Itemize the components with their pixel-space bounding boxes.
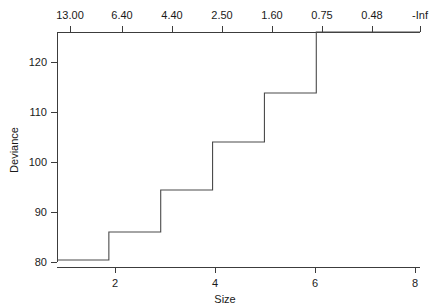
top-tick-label: 0.75 [311, 9, 332, 21]
top-tick-label: 6.40 [111, 9, 132, 21]
top-tick-label: 1.60 [261, 9, 282, 21]
deviance-step-series [57, 32, 420, 260]
x-tick-label: 6 [312, 277, 318, 289]
y-tick-label: 120 [29, 56, 47, 68]
y-tick-label: 80 [35, 256, 47, 268]
top-tick-label: 0.48 [361, 9, 382, 21]
y-tick-label: 90 [35, 206, 47, 218]
y-axis-title: Deviance [8, 127, 20, 173]
x-axis-ticks [115, 267, 415, 273]
top-tick-label: 4.40 [161, 9, 182, 21]
y-tick-label: 110 [29, 106, 47, 118]
x-axis-title: Size [214, 293, 235, 305]
x-tick-label: 4 [212, 277, 218, 289]
x-axis-tick-labels: 2 4 6 8 [112, 277, 418, 289]
top-tick-label: 2.50 [211, 9, 232, 21]
top-tick-label: -Inf [412, 9, 429, 21]
plot-canvas: 80 90 100 110 120 Deviance 2 4 6 8 Size [0, 0, 447, 307]
x-tick-label: 2 [112, 277, 118, 289]
y-axis-ticks [51, 62, 57, 262]
deviance-vs-size-step-chart: 80 90 100 110 120 Deviance 2 4 6 8 Size [0, 0, 447, 307]
y-tick-label: 100 [29, 156, 47, 168]
y-axis-tick-labels: 80 90 100 110 120 [29, 56, 47, 268]
top-tick-label: 13.00 [56, 9, 84, 21]
top-axis-ticks [70, 26, 420, 32]
top-axis-tick-labels: 13.00 6.40 4.40 2.50 1.60 0.75 0.48 -Inf [56, 9, 429, 21]
x-tick-label: 8 [412, 277, 418, 289]
